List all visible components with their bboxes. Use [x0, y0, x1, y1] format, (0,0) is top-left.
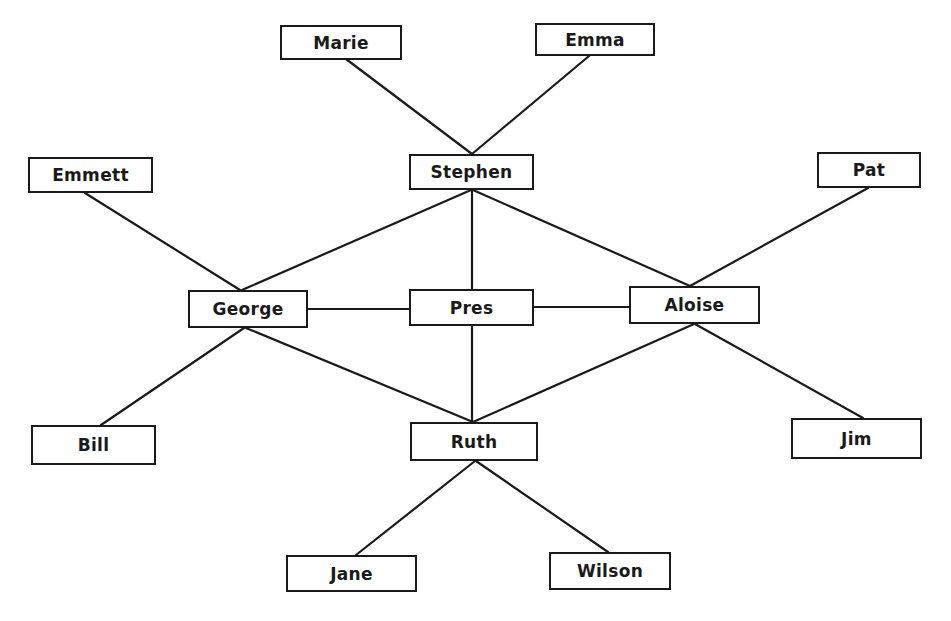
node-label: Ruth — [451, 432, 498, 452]
node-label: Pres — [450, 298, 494, 318]
node-jim: Jim — [791, 418, 922, 459]
edge-george-ruth — [246, 328, 473, 422]
edge-stephen-aloise — [473, 190, 690, 286]
node-label: Stephen — [431, 162, 513, 182]
node-label: George — [212, 299, 283, 319]
edge-marie-stephen — [346, 59, 472, 154]
node-label: Pat — [853, 160, 886, 180]
edge-aloise-ruth — [473, 324, 694, 422]
edge-emma-stephen — [472, 56, 589, 154]
edge-ruth-jane — [356, 461, 475, 555]
node-stephen: Stephen — [409, 154, 534, 190]
node-label: Aloise — [665, 295, 725, 315]
node-jane: Jane — [286, 555, 417, 592]
edge-george-bill — [101, 328, 244, 425]
node-ruth: Ruth — [410, 422, 538, 461]
node-label: Wilson — [577, 561, 643, 581]
edge-stephen-george — [242, 190, 471, 290]
node-pat: Pat — [817, 152, 921, 188]
node-pres: Pres — [409, 289, 534, 326]
node-label: Jane — [330, 564, 373, 584]
node-emmett: Emmett — [28, 157, 153, 193]
node-wilson: Wilson — [549, 552, 671, 590]
node-label: Emmett — [52, 165, 129, 185]
edge-aloise-jim — [695, 324, 863, 418]
sociogram-diagram: MarieEmmaStephenEmmettPatGeorgePresAlois… — [0, 0, 951, 621]
node-label: Marie — [313, 33, 369, 53]
node-marie: Marie — [280, 25, 402, 60]
node-bill: Bill — [31, 425, 156, 465]
node-george: George — [188, 290, 308, 328]
edge-emmett-george — [85, 193, 240, 290]
node-aloise: Aloise — [629, 286, 760, 324]
node-emma: Emma — [535, 23, 655, 56]
node-label: Jim — [841, 429, 872, 449]
edge-ruth-wilson — [476, 461, 608, 552]
node-label: Bill — [78, 435, 110, 455]
node-label: Emma — [565, 30, 625, 50]
edge-pat-aloise — [690, 188, 868, 286]
